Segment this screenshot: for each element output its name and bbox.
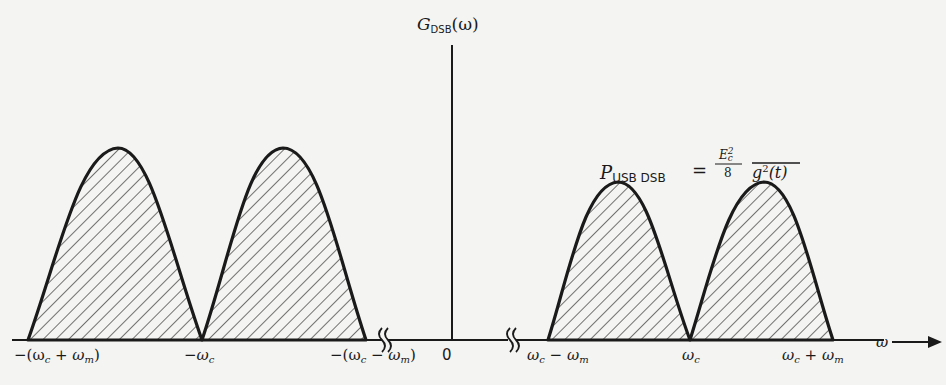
tick-close: ) xyxy=(410,346,416,364)
tick-sub2: m xyxy=(834,354,843,365)
tick-wc-plus-wm: ωc + ωm xyxy=(782,346,844,365)
right-break-icon xyxy=(507,328,519,352)
tick-rest: + ω xyxy=(50,346,84,364)
tick-text: −(ω xyxy=(14,346,45,364)
tick-text: ω xyxy=(782,346,794,364)
fraction-numerator: Ec2 xyxy=(719,146,739,163)
tick-neg-wc-minus-wm: −(ωc − ωm) xyxy=(330,346,416,365)
lobe-negative-outer xyxy=(28,148,202,340)
tick-rest: − ω xyxy=(366,346,400,364)
equals-sign: = xyxy=(692,160,707,181)
y-symbol: G xyxy=(417,14,431,34)
power-symbol: P xyxy=(600,162,612,183)
numerator-sup: 2 xyxy=(728,146,734,156)
dsb-spectrum-diagram: GDSB(ω) PUSB DSB = Ec2 8 g2(t) −(ωc + ωm… xyxy=(0,0,946,385)
g-arg: (t) xyxy=(769,163,788,182)
tick-sub: c xyxy=(209,354,215,365)
tick-wc: ωc xyxy=(682,346,700,365)
y-subscript: DSB xyxy=(431,24,452,35)
tick-sub2: m xyxy=(579,354,588,365)
lobe-negative-inner xyxy=(202,148,366,340)
tick-zero: 0 xyxy=(442,346,452,364)
tick-neg-wc-plus-wm: −(ωc + ωm) xyxy=(14,346,100,365)
tick-close: ) xyxy=(94,346,100,364)
mean-square-signal: g2(t) xyxy=(752,163,788,182)
lobe-positive-inner xyxy=(548,182,690,340)
tick-wc-minus-wm: ωc − ωm xyxy=(527,346,589,365)
tick-rest: + ω xyxy=(800,346,834,364)
tick-rest: − ω xyxy=(545,346,579,364)
fraction-denominator: 8 xyxy=(724,166,732,180)
power-subscript: USB DSB xyxy=(612,171,666,185)
tick-sub2: m xyxy=(401,354,410,365)
g-symbol: g xyxy=(752,163,762,182)
lobe-positive-outer xyxy=(690,182,833,340)
y-argument: (ω) xyxy=(452,14,479,34)
y-axis-label: GDSB(ω) xyxy=(417,14,479,35)
tick-text: −(ω xyxy=(330,346,361,364)
numerator-e: E xyxy=(719,148,728,162)
tick-text: −ω xyxy=(184,346,209,364)
spectrum-plot xyxy=(0,0,946,385)
x-axis-label: ω xyxy=(876,333,888,351)
tick-text: ω xyxy=(527,346,539,364)
tick-neg-wc: −ωc xyxy=(184,346,214,365)
tick-sub2: m xyxy=(85,354,94,365)
tick-text: ω xyxy=(682,346,694,364)
power-equation-lhs: PUSB DSB xyxy=(600,162,666,185)
tick-sub: c xyxy=(694,354,700,365)
